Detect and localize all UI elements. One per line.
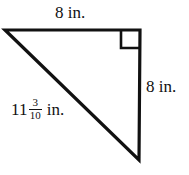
hypotenuse-whole-number: 11 <box>11 101 28 118</box>
hypotenuse-unit: in. <box>47 101 64 118</box>
hypotenuse-fraction: 3 10 <box>29 97 42 121</box>
triangle-shape <box>5 30 140 160</box>
top-leg-label: 8 in. <box>55 4 85 21</box>
hypotenuse-label: 11 3 10 in. <box>11 97 64 121</box>
fraction-numerator: 3 <box>32 97 40 109</box>
geometry-figure: 8 in. 8 in. 11 3 10 in. <box>0 0 189 175</box>
fraction-denominator: 10 <box>29 110 42 122</box>
right-leg-label: 8 in. <box>146 78 176 95</box>
